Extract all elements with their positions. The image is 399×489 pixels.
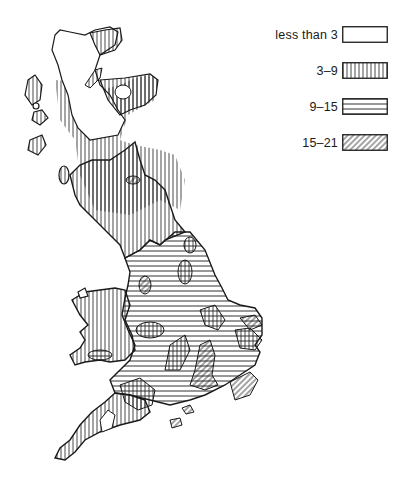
legend-item-15-21: 15–21 — [250, 134, 390, 154]
region-vpatch-5 — [184, 237, 196, 253]
legend-label: 3–9 — [317, 64, 338, 78]
legend-swatch-diagonal — [342, 134, 388, 151]
region-vpatch-1 — [136, 322, 164, 338]
region-hebrides-1 — [25, 75, 42, 105]
region-hebrides-2 — [32, 110, 48, 125]
legend-swatch-vertical — [342, 62, 388, 79]
region-patch-wight — [170, 418, 182, 428]
region-hebrides-4 — [59, 166, 69, 184]
region-hebrides-3 — [28, 135, 46, 155]
region-patch-1 — [139, 276, 151, 294]
legend-label: less than 3 — [275, 28, 338, 42]
legend-swatch-blank — [342, 26, 388, 43]
region-anglesey — [78, 288, 88, 298]
region-hebrides-5 — [33, 103, 39, 109]
legend-item-9-15: 9–15 — [250, 98, 390, 118]
legend-label: 15–21 — [302, 136, 338, 150]
legend-swatch-horizontal — [342, 98, 388, 115]
region-patch-hampshire — [182, 405, 194, 414]
legend-label: 9–15 — [309, 100, 338, 114]
region-north-patch — [126, 176, 140, 184]
region-vpatch-4 — [178, 260, 192, 284]
region-wales-patch — [88, 350, 112, 360]
region-cairngorms — [115, 85, 131, 99]
legend-item-3-9: 3–9 — [250, 62, 390, 82]
legend-item-less-than-3: less than 3 — [250, 26, 390, 46]
